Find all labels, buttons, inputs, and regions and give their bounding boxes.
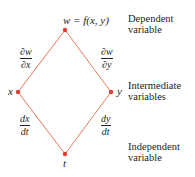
annotation-independent: Independent variable bbox=[128, 141, 180, 163]
node-y bbox=[109, 90, 113, 94]
fraction-numerator: ∂w bbox=[19, 47, 33, 58]
fraction-numerator: ∂w bbox=[100, 47, 114, 58]
fraction-denominator: ∂x bbox=[20, 58, 31, 70]
annotation-line: variable bbox=[128, 152, 180, 163]
fraction-denominator: ∂y bbox=[101, 58, 112, 70]
edge-label-dx-dt: dx dt bbox=[19, 114, 30, 137]
node-label-t: t bbox=[63, 158, 66, 169]
annotation-line: Dependent bbox=[128, 13, 173, 24]
node-label-w: w = f(x, y) bbox=[63, 15, 109, 26]
fraction-denominator: dt bbox=[20, 125, 30, 137]
edge-label-dy-dt: dy dt bbox=[100, 114, 111, 137]
fraction-denominator: dt bbox=[101, 125, 111, 137]
node-label-x: x bbox=[8, 86, 13, 97]
annotation-line: Intermediate bbox=[128, 80, 181, 91]
node-x bbox=[16, 90, 20, 94]
fraction-numerator: dy bbox=[100, 114, 111, 125]
edge-label-dw-dx: ∂w ∂x bbox=[19, 47, 33, 70]
fraction-numerator: dx bbox=[19, 114, 30, 125]
node-w bbox=[63, 28, 67, 32]
node-t bbox=[63, 152, 67, 156]
annotation-line: variables bbox=[128, 91, 181, 102]
annotation-line: variable bbox=[128, 24, 173, 35]
edge-label-dw-dy: ∂w ∂y bbox=[100, 47, 114, 70]
annotation-line: Independent bbox=[128, 141, 180, 152]
node-label-y: y bbox=[117, 86, 122, 97]
annotation-dependent: Dependent variable bbox=[128, 13, 173, 35]
annotation-intermediate: Intermediate variables bbox=[128, 80, 181, 102]
